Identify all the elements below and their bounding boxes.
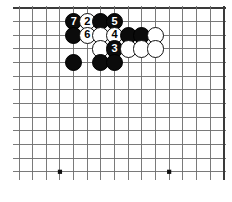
star-point [58,170,62,174]
go-diagram: 725643 [0,0,232,202]
stone-move-number: 4 [112,29,118,40]
stone-move-number: 6 [84,29,90,40]
stone-move-number: 2 [84,16,90,27]
stone-move-number: 5 [112,16,118,27]
stone-move-number: 7 [71,16,77,27]
stone-move-number: 3 [112,43,118,54]
star-point [167,170,171,174]
go-stone-white[interactable] [147,40,164,57]
